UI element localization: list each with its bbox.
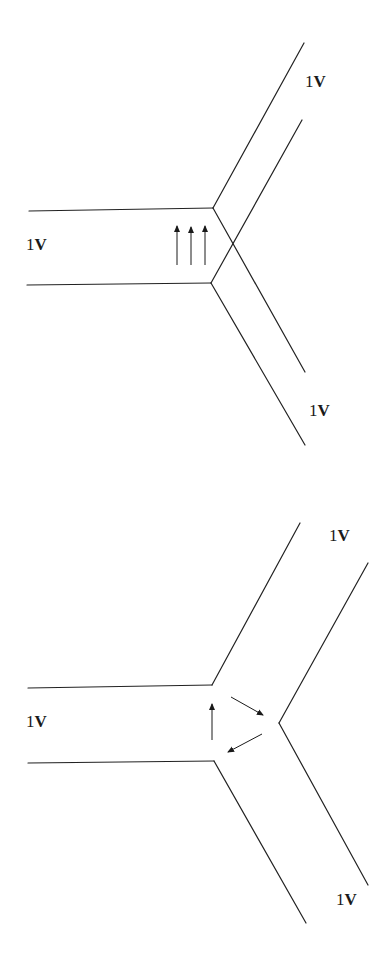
label-suffix: V: [338, 526, 350, 545]
junction-edge-line: [214, 761, 306, 923]
branch-label-top-left: 1V: [26, 236, 47, 253]
label-suffix: V: [318, 401, 330, 420]
junction-edge-line: [27, 283, 211, 285]
top-junction-edges: [27, 43, 305, 445]
branch-label-bottom-upper-right: 1V: [329, 527, 350, 544]
label-prefix: 1: [26, 235, 35, 254]
label-prefix: 1: [26, 712, 35, 731]
bottom-junction-edges: [28, 523, 368, 923]
branch-label-bottom-left: 1V: [26, 713, 47, 730]
junction-edge-line: [28, 685, 212, 688]
label-prefix: 1: [336, 890, 345, 909]
branch-label-bottom-lower-right: 1V: [336, 891, 357, 908]
junction-edge-line: [213, 208, 305, 372]
top-junction-flow-arrows: [177, 226, 205, 265]
junction-edge-line: [213, 43, 304, 208]
label-prefix: 1: [309, 401, 318, 420]
junction-edge-line: [279, 563, 368, 723]
label-suffix: V: [35, 235, 47, 254]
junction-edge-line: [212, 523, 300, 685]
bottom-junction-diagram: [28, 523, 368, 923]
label-prefix: 1: [305, 72, 314, 91]
diagram-canvas: [0, 0, 378, 974]
label-suffix: V: [345, 890, 357, 909]
junction-edge-line: [211, 120, 302, 283]
arrow-down-right-icon: [231, 697, 263, 715]
junction-edge-line: [28, 761, 214, 763]
label-suffix: V: [35, 712, 47, 731]
branch-label-top-upper-right: 1V: [305, 73, 326, 90]
arrow-down-left-icon: [228, 734, 262, 752]
junction-edge-line: [279, 723, 368, 885]
label-suffix: V: [314, 72, 326, 91]
bottom-junction-flow-arrows: [212, 697, 263, 752]
label-prefix: 1: [329, 526, 338, 545]
top-junction-diagram: [27, 43, 305, 445]
junction-edge-line: [29, 208, 213, 211]
branch-label-top-lower-right: 1V: [309, 402, 330, 419]
junction-edge-line: [211, 283, 305, 445]
